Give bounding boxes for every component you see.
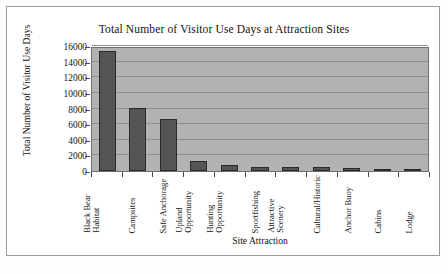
y-axis-tick-labels: 0200040006000800010000120001400016000 <box>39 47 87 172</box>
chart-frame: Total Number of Visitor Use Days at Attr… <box>6 6 440 256</box>
x-tick-label: Cabins <box>374 209 383 233</box>
y-tick-label: 6000 <box>43 121 87 130</box>
x-tick-label-line: Anchor Buoy <box>343 186 352 233</box>
bar[interactable] <box>343 168 360 171</box>
bar-slot <box>123 48 154 171</box>
bar[interactable] <box>129 108 146 171</box>
x-tick-label-line: Opportunity <box>216 191 225 233</box>
y-tick-label: 14000 <box>43 59 87 68</box>
bar-slot <box>397 48 428 171</box>
y-tick-label: 0 <box>43 168 87 177</box>
bar[interactable] <box>313 167 330 171</box>
y-tick-label: 10000 <box>43 90 87 99</box>
y-tick-label: 8000 <box>43 106 87 115</box>
chart-title: Total Number of Visitor Use Days at Attr… <box>7 23 441 35</box>
x-label-slot: AttractiveScenery <box>275 177 306 233</box>
x-tick-label-line: Opportunity <box>185 191 194 233</box>
figure: Total Number of Visitor Use Days at Attr… <box>0 0 448 274</box>
x-tick-label-line: Cultural/Historic <box>312 175 321 233</box>
x-tick-label-line: Campsites <box>128 197 137 233</box>
bar[interactable] <box>190 161 207 171</box>
bar-series <box>92 48 428 171</box>
x-label-slot: Cultural/Historic <box>306 177 337 233</box>
y-tick-mark <box>85 156 90 157</box>
bar-slot <box>184 48 215 171</box>
x-label-slot: Campsites <box>122 177 153 233</box>
x-tick-label: Campsites <box>128 197 137 233</box>
x-label-slot: Black BearHabitat <box>91 177 122 233</box>
bar[interactable] <box>221 165 238 171</box>
x-tick-label: Black BearHabitat <box>83 195 102 233</box>
bar-slot <box>336 48 367 171</box>
plot-area <box>91 47 429 172</box>
x-label-slot: Anchor Buoy <box>337 177 368 233</box>
x-tick-label: Anchor Buoy <box>343 186 352 233</box>
bar[interactable] <box>282 167 299 171</box>
bar-slot <box>214 48 245 171</box>
y-tick-mark <box>85 63 90 64</box>
bar-slot <box>92 48 123 171</box>
y-tick-mark <box>85 78 90 79</box>
x-tick-label-line: Lodge <box>405 211 414 233</box>
x-tick-label: AttractiveScenery <box>268 199 287 233</box>
x-tick-label: HuntingOpportunity <box>206 191 225 233</box>
y-tick-mark <box>85 47 90 48</box>
x-tick-label: Lodge <box>405 211 414 233</box>
x-tick-label-line: Habitat <box>93 195 102 233</box>
x-tick-label: Sportfishing <box>251 191 260 234</box>
x-tick-label-line: Safe Anchorage <box>159 178 168 233</box>
x-tick-label: Cultural/Historic <box>312 175 321 233</box>
y-tick-mark <box>85 94 90 95</box>
x-label-slot: Lodge <box>398 177 429 233</box>
x-tick-label-line: Sportfishing <box>251 191 260 234</box>
bar-slot <box>153 48 184 171</box>
x-axis-title: Site Attraction <box>91 235 429 246</box>
x-tick-mark <box>429 172 430 177</box>
y-tick-label: 2000 <box>43 152 87 161</box>
y-tick-mark <box>85 110 90 111</box>
x-axis-tick-labels: Black BearHabitatCampsitesSafe Anchorage… <box>91 177 429 233</box>
bar[interactable] <box>160 119 177 171</box>
y-tick-label: 16000 <box>43 43 87 52</box>
bar-slot <box>275 48 306 171</box>
bar-slot <box>306 48 337 171</box>
y-tick-mark <box>85 172 90 173</box>
bar[interactable] <box>374 169 391 171</box>
x-label-slot: HuntingOpportunity <box>214 177 245 233</box>
bar-slot <box>367 48 398 171</box>
x-tick-label: UplandOpportunity <box>175 191 194 233</box>
bar-slot <box>245 48 276 171</box>
y-axis-title: Total Number of Visitor Use Days <box>21 6 32 176</box>
bar[interactable] <box>251 167 268 171</box>
x-tick-label-line: Cabins <box>374 209 383 233</box>
gridline <box>92 45 428 46</box>
y-tick-mark <box>85 141 90 142</box>
y-tick-label: 4000 <box>43 137 87 146</box>
bar[interactable] <box>404 169 421 171</box>
x-tick-label: Safe Anchorage <box>159 178 168 233</box>
y-tick-label: 12000 <box>43 74 87 83</box>
y-tick-mark <box>85 125 90 126</box>
bar[interactable] <box>99 51 116 171</box>
x-tick-label-line: Scenery <box>277 199 286 233</box>
x-label-slot: Cabins <box>368 177 399 233</box>
